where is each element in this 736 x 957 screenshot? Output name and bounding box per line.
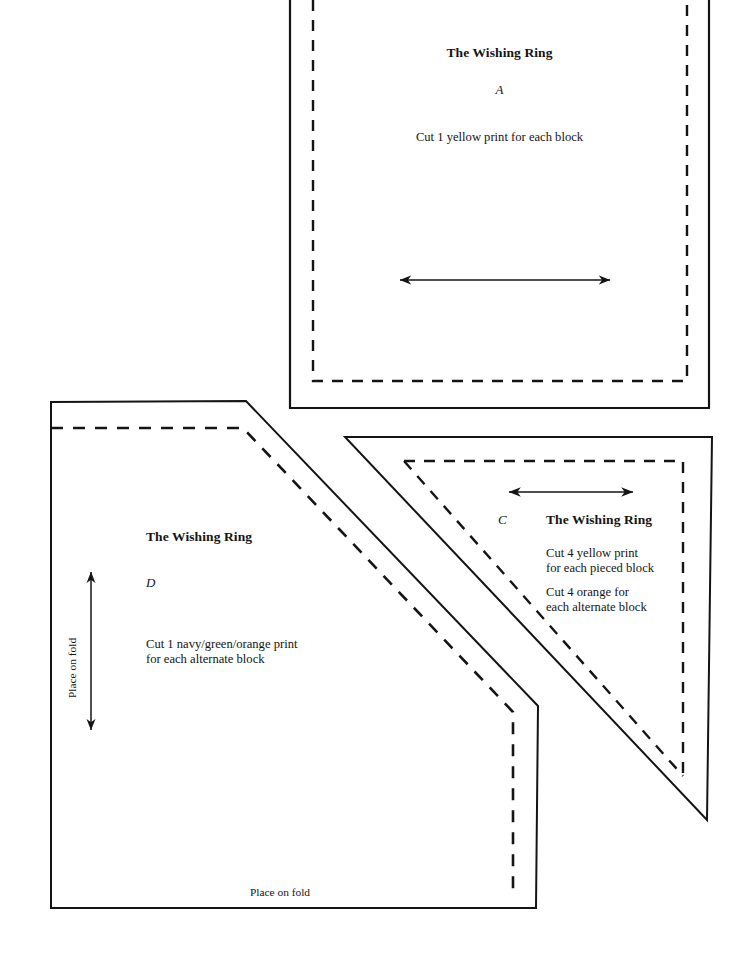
piece-c-cut-note-1: Cut 4 yellow print for each pieced block <box>546 546 654 577</box>
pattern-sheet: The Wishing Ring A Cut 1 yellow print fo… <box>0 0 736 957</box>
piece-c-cut-note-2: Cut 4 orange for each alternate block <box>546 585 647 616</box>
piece-c-cut-line <box>345 437 712 820</box>
piece-c-seam-line-hypotenuse <box>404 461 683 776</box>
piece-c-shape <box>345 437 712 820</box>
piece-a-title: The Wishing Ring <box>290 45 709 61</box>
piece-c-seam-line-top-right <box>404 461 683 776</box>
piece-a-letter: A <box>290 82 709 98</box>
piece-d-title: The Wishing Ring <box>146 529 252 545</box>
piece-c-title: The Wishing Ring <box>546 512 652 528</box>
piece-a-cut-note: Cut 1 yellow print for each block <box>290 130 709 145</box>
piece-d-fold-note-bottom: Place on fold <box>180 886 380 900</box>
piece-c-letter: C <box>498 512 507 528</box>
piece-d-cut-note: Cut 1 navy/green/orange print for each a… <box>146 637 297 668</box>
piece-d-fold-note-left: Place on fold <box>66 638 80 698</box>
piece-d-letter: D <box>146 575 155 591</box>
